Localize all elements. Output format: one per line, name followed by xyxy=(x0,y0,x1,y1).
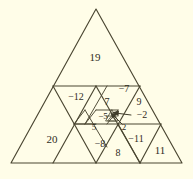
triangle-figure: 19 −12 20 −7 9 7 −5 −2 5 2 −8 8 −11 11 xyxy=(0,0,193,179)
lower-right-edge-b xyxy=(140,124,161,163)
quarter-edge-cross-a xyxy=(85,86,107,124)
triangle-diagram-svg xyxy=(0,0,193,179)
lower-right-edge-a xyxy=(118,124,140,163)
quarter-edge-cross-b xyxy=(85,110,107,147)
lower-left-edge-b xyxy=(74,110,85,124)
